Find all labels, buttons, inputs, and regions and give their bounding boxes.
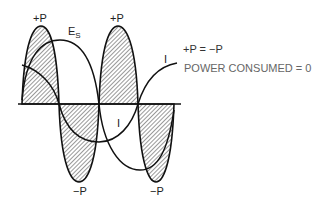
power-waveform-diagram: [0, 0, 315, 204]
label-plus-p-2: +P: [110, 13, 124, 24]
positive-power-lobe-1: [22, 26, 59, 104]
positive-power-lobe-2: [99, 26, 138, 104]
label-voltage-es: ES: [68, 26, 81, 40]
voltage-label-sub: S: [75, 31, 80, 40]
equation-text: +P = −P: [183, 44, 223, 55]
negative-power-lobe-1: [59, 104, 99, 182]
power-consumed-text: POWER CONSUMED = 0: [184, 63, 311, 74]
label-current-lower: I: [117, 118, 120, 129]
label-current-upper: I: [164, 54, 167, 65]
label-plus-p-1: +P: [33, 13, 47, 24]
label-minus-p-2: −P: [150, 186, 164, 197]
label-minus-p-1: −P: [73, 186, 87, 197]
